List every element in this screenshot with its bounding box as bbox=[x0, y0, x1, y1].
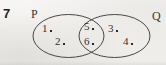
venn-diagram-figure: 7 P Q 1 2 5 6 3 4 bbox=[0, 0, 166, 65]
element-bullet-icon bbox=[92, 28, 94, 30]
element-value: 4 bbox=[123, 35, 129, 47]
element-bullet-icon bbox=[92, 43, 94, 45]
element-bullet-icon bbox=[131, 43, 133, 45]
element-p-only-1: 1 bbox=[42, 23, 52, 34]
element-value: 5 bbox=[84, 20, 90, 32]
element-value: 2 bbox=[55, 35, 61, 47]
element-q-only-3: 3 bbox=[108, 23, 118, 34]
element-value: 6 bbox=[84, 35, 90, 47]
set-label-p: P bbox=[31, 8, 38, 20]
element-q-only-4: 4 bbox=[123, 36, 133, 47]
element-bullet-icon bbox=[50, 30, 52, 32]
set-label-q: Q bbox=[152, 10, 161, 22]
element-value: 3 bbox=[108, 22, 114, 34]
element-bullet-icon bbox=[116, 30, 118, 32]
element-intersection-6: 6 bbox=[84, 36, 94, 47]
element-intersection-5: 5 bbox=[84, 21, 94, 32]
element-bullet-icon bbox=[63, 43, 65, 45]
element-value: 1 bbox=[42, 22, 48, 34]
element-p-only-2: 2 bbox=[55, 36, 65, 47]
venn-ellipses-group bbox=[0, 0, 166, 65]
